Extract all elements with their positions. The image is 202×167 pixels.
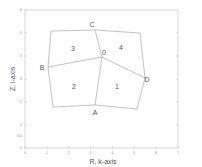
- point-label-a: A: [93, 109, 98, 116]
- y-tick-label: 6: [20, 8, 22, 12]
- x-tick-label: 2: [68, 151, 70, 155]
- x-tick-label: 0: [24, 151, 26, 155]
- y-axis-label: Z, i-axis: [9, 66, 16, 91]
- cell-label-3: 3: [71, 45, 75, 52]
- y-tick-label: 4: [20, 54, 22, 58]
- y-tick-label: 0.5: [17, 134, 22, 138]
- point-label-0: 0: [102, 49, 106, 56]
- point-label-d: D: [144, 76, 149, 83]
- point-label-b: B: [40, 64, 45, 71]
- y-tick-label: 5: [20, 31, 22, 35]
- edge-0-d: [102, 57, 145, 78]
- point-label-c: C: [89, 21, 94, 28]
- edge-c-0: [95, 30, 102, 57]
- mesh-edges: [48, 30, 145, 109]
- y-tick-label: 0: [20, 146, 22, 150]
- cell-label-2: 2: [72, 83, 76, 90]
- edge-0-a: [95, 57, 102, 105]
- mesh-diagram: 0 1 2 3 4 5 6 7 0 0.5 1 2 3 4 5 6: [0, 0, 202, 167]
- y-axis-tick-labels: 0 0.5 1 2 3 4 5 6: [17, 8, 22, 150]
- x-tick-label: 7: [177, 151, 179, 155]
- x-tick-label: 1: [46, 151, 48, 155]
- x-tick-label: 3: [90, 151, 92, 155]
- cell-label-4: 4: [119, 44, 123, 51]
- edge-b-0: [48, 57, 102, 67]
- cell-label-1: 1: [115, 83, 119, 90]
- x-axis-tick-labels: 0 1 2 3 4 5 6 7: [24, 151, 179, 155]
- x-tick-label: 5: [133, 151, 135, 155]
- y-tick-label: 3: [20, 77, 22, 81]
- y-tick-label: 2: [20, 100, 22, 104]
- x-axis-label: R, k-axis: [89, 158, 117, 165]
- x-tick-label: 6: [155, 151, 157, 155]
- mesh-boundary: [48, 30, 145, 109]
- x-tick-label: 4: [111, 151, 113, 155]
- y-tick-label: 1: [20, 123, 22, 127]
